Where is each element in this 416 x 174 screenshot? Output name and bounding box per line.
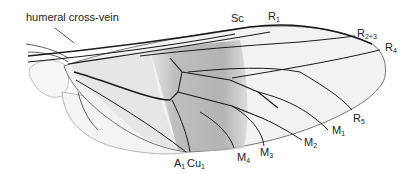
label-m2-base: M <box>304 136 313 148</box>
label-sc: Sc <box>231 13 244 24</box>
label-m4-sub: 4 <box>246 157 250 164</box>
label-m1-base: M <box>332 124 341 136</box>
wing-diagram <box>0 0 416 174</box>
label-cu1-sub: 1 <box>201 163 205 170</box>
label-r4-base: R <box>385 41 393 53</box>
label-m1: M1 <box>332 125 345 137</box>
label-r1-sub: 1 <box>276 16 280 23</box>
label-cu1: Cu1 <box>187 158 205 170</box>
alula-lobe <box>29 60 68 97</box>
label-r23-base: R <box>357 27 365 39</box>
label-m2: M2 <box>304 137 317 149</box>
label-humeral-cross-vein: humeral cross-vein <box>26 12 119 23</box>
label-r23-sub: 2+3 <box>365 33 377 40</box>
label-m3-base: M <box>260 146 269 158</box>
label-r1-base: R <box>268 10 276 22</box>
label-m4: M4 <box>237 152 250 164</box>
label-r5-base: R <box>353 112 361 124</box>
label-r23: R2+3 <box>357 28 377 40</box>
humeral-pointer <box>55 28 74 43</box>
label-r1: R1 <box>268 11 280 23</box>
label-r4-sub: 4 <box>393 47 397 54</box>
label-m2-sub: 2 <box>313 142 317 149</box>
label-r5-sub: 5 <box>361 118 365 125</box>
label-cu1-base: Cu <box>187 157 201 169</box>
label-m3: M3 <box>260 147 273 159</box>
label-r5: R5 <box>353 113 365 125</box>
label-a1-sub: 1 <box>181 163 185 170</box>
label-sc-text: Sc <box>231 12 244 24</box>
label-m4-base: M <box>237 151 246 163</box>
label-m1-sub: 1 <box>341 130 345 137</box>
label-a1: A1 <box>174 158 185 170</box>
label-m3-sub: 3 <box>269 152 273 159</box>
label-r4: R4 <box>385 42 397 54</box>
